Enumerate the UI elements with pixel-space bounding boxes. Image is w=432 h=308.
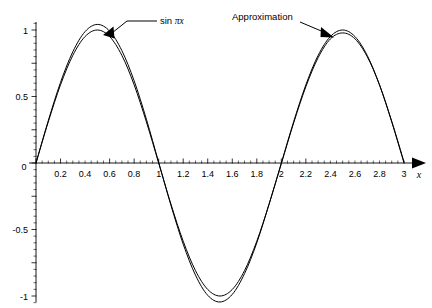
annotation-sin-leading: sin — [160, 15, 175, 26]
y-tick-label: 1 — [23, 26, 28, 36]
annotation-approximation-arrow-icon — [321, 27, 335, 38]
annotation-approximation: Approximation — [232, 11, 334, 38]
x-tick-label: 3 — [401, 169, 406, 179]
x-tick-label: 1.6 — [226, 169, 239, 179]
x-axis-tick-labels: 0.20.40.60.811.21.41.61.822.22.42.62.83 — [54, 169, 406, 179]
x-tick-label: 0.6 — [103, 169, 116, 179]
y-tick-label: 0.5 — [15, 92, 28, 102]
x-tick-label: 2.4 — [324, 169, 337, 179]
annotation-sin-leader-segment — [112, 21, 127, 33]
annotation-sin-label: sin πx — [160, 15, 185, 26]
x-tick-label: 0.2 — [54, 169, 67, 179]
x-tick-label: 0.8 — [128, 169, 141, 179]
annotation-approximation-label: Approximation — [232, 11, 293, 22]
x-tick-label: 1.4 — [201, 169, 214, 179]
x-symbol: x — [179, 16, 185, 26]
chart-figure: 0.20.40.60.811.21.41.61.822.22.42.62.83 … — [0, 0, 432, 308]
origin-tick-label: 0 — [21, 162, 26, 172]
x-tick-label: 1.8 — [251, 169, 264, 179]
sine-approximation-plot: 0.20.40.60.811.21.41.61.822.22.42.62.83 … — [0, 0, 432, 308]
axes-group — [29, 22, 426, 302]
x-tick-label: 1.2 — [177, 169, 190, 179]
x-tick-label: 2.8 — [373, 169, 386, 179]
x-tick-label: 2.2 — [300, 169, 313, 179]
x-axis-arrow-icon — [412, 158, 426, 169]
y-tick-label: -0.5 — [12, 225, 28, 235]
x-tick-label: 0.4 — [79, 169, 92, 179]
x-tick-label: 2.6 — [349, 169, 362, 179]
annotation-sin-pi-x: sin πx — [103, 15, 185, 39]
x-axis-ticks — [36, 159, 404, 164]
y-tick-label: -1 — [20, 292, 28, 302]
x-axis-label: x — [416, 169, 422, 180]
